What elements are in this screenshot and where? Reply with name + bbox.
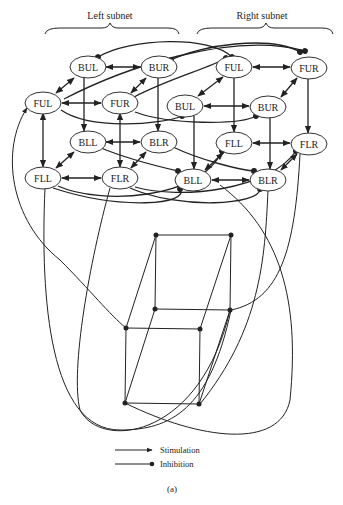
legend-inhibition: Inhibition — [160, 459, 194, 469]
node-right-ful: FUL — [216, 56, 252, 78]
neural-network-diagram: Left subnet Right subnet — [0, 0, 343, 505]
left-subnet-brace — [45, 23, 179, 34]
right-subnet-brace — [197, 23, 333, 34]
legend: Stimulation Inhibition — [115, 445, 200, 469]
node-right-flr: FLR — [291, 133, 327, 155]
legend-stimulation: Stimulation — [160, 445, 200, 455]
svg-text:BLR: BLR — [258, 175, 278, 186]
svg-text:BUL: BUL — [175, 101, 195, 112]
right-subnet-label: Right subnet — [237, 10, 288, 21]
node-left-fur: FUR — [102, 92, 138, 114]
svg-text:BLL: BLL — [79, 137, 98, 148]
svg-text:BUR: BUR — [149, 62, 170, 73]
svg-text:FUL: FUL — [225, 62, 244, 73]
node-left-ful: FUL — [25, 92, 61, 114]
node-right-fur: FUR — [291, 57, 327, 79]
node-right-bll: BLL — [175, 169, 211, 191]
figure-caption: (a) — [167, 484, 177, 494]
svg-text:FLL: FLL — [34, 173, 52, 184]
svg-text:BUL: BUL — [78, 62, 98, 73]
svg-text:FUR: FUR — [110, 98, 130, 109]
svg-text:FLR: FLR — [111, 173, 130, 184]
left-subnet-label: Left subnet — [87, 10, 132, 21]
node-right-fll: FLL — [216, 132, 252, 154]
svg-text:BUR: BUR — [258, 102, 279, 113]
node-right-blr: BLR — [250, 169, 286, 191]
node-left-bul: BUL — [70, 56, 106, 78]
svg-text:FUR: FUR — [299, 63, 319, 74]
svg-text:FLL: FLL — [225, 138, 243, 149]
node-left-flr: FLR — [102, 167, 138, 189]
svg-text:FUL: FUL — [34, 98, 53, 109]
svg-text:BLL: BLL — [184, 175, 203, 186]
svg-text:FLR: FLR — [300, 139, 319, 150]
svg-text:BLR: BLR — [149, 137, 169, 148]
node-right-bur: BUR — [250, 96, 286, 118]
node-left-bll: BLL — [70, 131, 106, 153]
node-left-blr: BLR — [141, 131, 177, 153]
node-left-fll: FLL — [25, 167, 61, 189]
node-right-bul: BUL — [167, 95, 203, 117]
node-left-bur: BUR — [141, 56, 177, 78]
